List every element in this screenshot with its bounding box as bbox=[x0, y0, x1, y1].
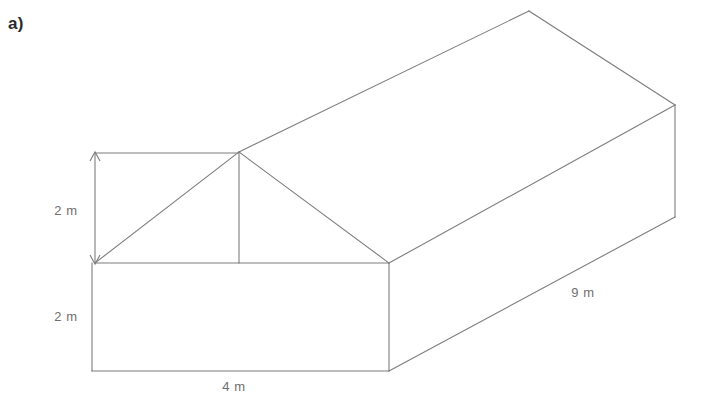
depth-label: 9 m bbox=[571, 285, 594, 300]
geometric-solid-diagram: 2 m 2 m 4 m 9 m bbox=[0, 0, 713, 407]
base-lower-right-edge bbox=[389, 217, 675, 371]
front-gable-left-slope-edge bbox=[95, 152, 239, 263]
front-gable-right-slope-edge bbox=[239, 152, 389, 263]
ridge-line-edge bbox=[239, 11, 529, 152]
wall-height-label: 2 m bbox=[54, 309, 77, 324]
rear-gable-slope-edge bbox=[529, 11, 675, 105]
figure-container: a) 2 m 2 m 4 m 9 m bbox=[0, 0, 713, 407]
roof-lower-right-edge bbox=[389, 105, 675, 263]
roof-height-label: 2 m bbox=[54, 203, 77, 218]
base-width-label: 4 m bbox=[222, 379, 245, 394]
